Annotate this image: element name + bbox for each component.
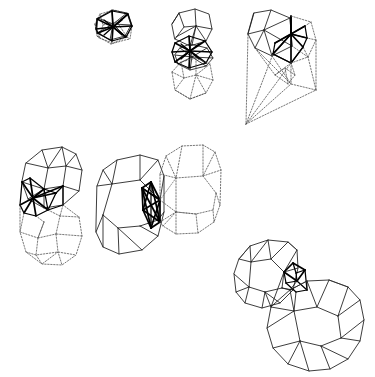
- figure-rhombic-cell-pair: [172, 9, 213, 99]
- figure-truncated-cuboctahedron-pair: [234, 240, 364, 371]
- figure-wedge-cone-cell: [246, 10, 316, 124]
- figure-small-star-cell: [95, 10, 132, 44]
- fig6-solid-lower-right-solid: [267, 280, 364, 371]
- fig6-solid-upper-left-solid: [234, 240, 298, 308]
- fig2-solid-upper-cell: [172, 9, 212, 46]
- fig1-heavy-star-core: [96, 11, 132, 41]
- figure-rhombic-dodecahedron-pair: [20, 147, 82, 265]
- figure-truncated-octahedron-pair: [96, 145, 221, 254]
- figure-sheet: [0, 0, 375, 377]
- fig5-ghost-shell: [160, 145, 221, 234]
- fig5-heavy-octahedron-core: [142, 182, 160, 228]
- fig3-solid-wedge: [248, 10, 292, 56]
- polyhedra-illustration: [0, 0, 375, 377]
